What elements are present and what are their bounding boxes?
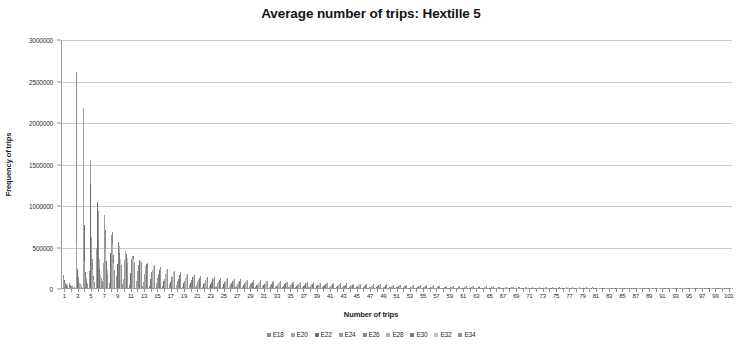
- x-tick-mark: [131, 289, 132, 292]
- bar-cluster: [587, 39, 592, 288]
- x-tick-label: 29: [247, 293, 253, 299]
- bar-cluster: [162, 39, 167, 288]
- plot-area: [61, 40, 732, 289]
- bar-cluster: [415, 39, 420, 288]
- x-tick-label: 79: [579, 293, 585, 299]
- x-tick-mark: [596, 289, 597, 292]
- x-tick-label: 35: [287, 293, 293, 299]
- x-tick-mark: [197, 289, 198, 292]
- x-tick-mark: [463, 289, 464, 292]
- x-tick-mark: [343, 289, 344, 292]
- x-tick-mark: [224, 289, 225, 292]
- bar: [327, 283, 328, 288]
- x-tick-mark: [715, 289, 716, 292]
- bar-cluster: [501, 39, 506, 288]
- legend-item[interactable]: E32: [434, 331, 451, 338]
- bar-cluster: [156, 39, 161, 288]
- bar-cluster: [315, 39, 320, 288]
- bar-cluster: [508, 39, 513, 288]
- bar-cluster: [614, 39, 619, 288]
- legend-item[interactable]: E30: [410, 331, 427, 338]
- x-tick-label: 91: [659, 293, 665, 299]
- x-tick-label: 97: [699, 293, 705, 299]
- bar-cluster: [408, 39, 413, 288]
- legend-item[interactable]: E24: [339, 331, 356, 338]
- bar: [559, 287, 560, 288]
- x-tick-mark: [722, 289, 723, 292]
- x-tick-label: 69: [513, 293, 519, 299]
- bar: [453, 286, 454, 288]
- bar: [234, 279, 235, 288]
- bar: [260, 280, 261, 288]
- x-tick-mark: [430, 289, 431, 292]
- x-tick-mark: [237, 289, 238, 292]
- x-tick-label: 45: [354, 293, 360, 299]
- x-tick-label: 33: [274, 293, 280, 299]
- bar: [393, 285, 394, 288]
- y-tick-label: 1000000: [29, 203, 53, 210]
- bar: [340, 283, 341, 288]
- bar: [101, 278, 102, 288]
- bar-cluster: [455, 39, 460, 288]
- legend-swatch-icon: [291, 333, 295, 337]
- x-tick-mark: [410, 289, 411, 292]
- bar-cluster: [202, 39, 207, 288]
- bar: [207, 277, 208, 288]
- bar-cluster: [195, 39, 200, 288]
- x-tick-mark: [164, 289, 165, 292]
- bar: [141, 262, 142, 288]
- bar-cluster: [481, 39, 486, 288]
- bar-cluster: [302, 39, 307, 288]
- bar-cluster: [707, 39, 712, 288]
- bar-cluster: [694, 39, 699, 288]
- x-tick-label: 21: [194, 293, 200, 299]
- legend-item[interactable]: E26: [363, 331, 380, 338]
- x-tick-label: 85: [619, 293, 625, 299]
- x-tick-mark: [310, 289, 311, 292]
- bar: [194, 275, 195, 288]
- legend-label: E30: [416, 331, 427, 338]
- x-tick-label: 9: [116, 293, 119, 299]
- bar-cluster: [182, 39, 187, 288]
- bar-cluster: [109, 39, 114, 288]
- x-tick-mark: [470, 289, 471, 292]
- legend-item[interactable]: E18: [267, 331, 284, 338]
- x-tick-label: 61: [460, 293, 466, 299]
- bar-cluster: [169, 39, 174, 288]
- bar: [572, 287, 573, 288]
- legend-swatch-icon: [386, 333, 390, 337]
- bar-cluster: [335, 39, 340, 288]
- legend-item[interactable]: E20: [291, 331, 308, 338]
- bar: [506, 287, 507, 288]
- x-tick-mark: [104, 289, 105, 292]
- bar: [346, 283, 347, 288]
- bar-cluster: [269, 39, 274, 288]
- bar: [513, 287, 514, 288]
- x-tick-mark: [656, 289, 657, 292]
- x-tick-label: 87: [633, 293, 639, 299]
- bar-cluster: [235, 39, 240, 288]
- bar: [592, 287, 593, 288]
- bar-cluster: [461, 39, 466, 288]
- bar: [732, 288, 733, 289]
- bar-cluster: [401, 39, 406, 288]
- x-tick-mark: [377, 289, 378, 292]
- bar-cluster: [654, 39, 659, 288]
- x-tick-mark: [117, 289, 118, 292]
- x-tick-mark: [390, 289, 391, 292]
- legend-label: E28: [392, 331, 403, 338]
- bar: [154, 265, 155, 288]
- bar: [287, 282, 288, 288]
- bar-cluster: [680, 39, 685, 288]
- x-tick-label: 83: [606, 293, 612, 299]
- bar-cluster: [229, 39, 234, 288]
- legend-item[interactable]: E34: [458, 331, 475, 338]
- chart-title: Average number of trips: Hextille 5: [0, 6, 742, 21]
- bar-cluster: [554, 39, 559, 288]
- x-tick-label: 77: [566, 293, 572, 299]
- x-tick-mark: [563, 289, 564, 292]
- legend-item[interactable]: E22: [315, 331, 332, 338]
- legend-label: E34: [464, 331, 475, 338]
- bar: [400, 285, 401, 288]
- legend-item[interactable]: E28: [386, 331, 403, 338]
